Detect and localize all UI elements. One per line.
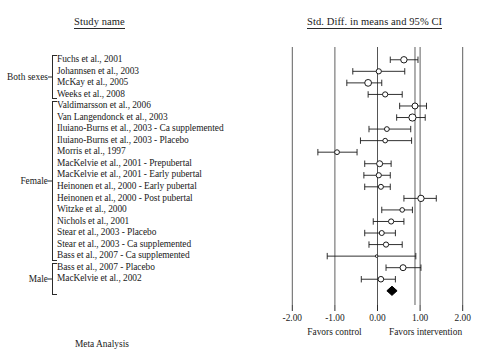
forest-row	[400, 103, 427, 109]
study-row: Iluiano-Burns et al., 2003 - Ca suppleme…	[57, 123, 317, 135]
effect-size-marker	[383, 92, 388, 97]
study-row: Fuchs et al., 2001	[57, 54, 317, 66]
forest-row	[361, 276, 395, 282]
study-row: Nichols et al., 2001	[57, 216, 317, 228]
forest-row	[365, 230, 396, 236]
forest-row	[386, 264, 421, 270]
forest-row	[404, 195, 436, 201]
effect-size-marker	[365, 79, 372, 86]
effect-size-marker	[409, 114, 416, 121]
favors-intervention-label: Favors intervention	[389, 327, 462, 337]
study-row: Bass et al., 2007 - Placebo	[57, 262, 317, 274]
effect-size-marker	[376, 173, 381, 178]
study-row: Heinonen et al., 2000 - Early pubertal	[57, 181, 317, 193]
effect-size-marker	[400, 265, 406, 271]
forest-row	[347, 79, 382, 86]
forest-row	[368, 91, 402, 97]
bracket-tick	[48, 77, 52, 78]
forest-row	[327, 253, 416, 259]
study-row: Weeks et al., 2008	[57, 89, 317, 101]
effect-size-marker	[376, 69, 381, 74]
study-row: Johannsen et al., 2003	[57, 66, 317, 78]
axis-tick-label: -1.00	[325, 313, 345, 323]
study-name-column-header: Study name	[74, 16, 125, 29]
effect-size-marker	[389, 219, 394, 224]
effect-size-marker	[401, 57, 407, 63]
forest-plot-figure: Study name Std. Diff. in means and 95% C…	[0, 0, 490, 358]
study-row: Iluiano-Burns et al., 2003 - Placebo	[57, 135, 317, 147]
bracket-tick	[48, 279, 52, 280]
effect-size-marker	[335, 150, 340, 155]
study-row: Valdimarsson et al., 2006	[57, 100, 317, 112]
meta-analysis-label: Meta Analysis	[75, 339, 129, 349]
forest-row	[365, 161, 391, 167]
study-row: MacKelvie et al., 2001 - Early pubertal	[57, 169, 317, 181]
summary-diamond	[387, 286, 397, 295]
forest-row	[373, 218, 404, 224]
group-label: Both sexes	[7, 72, 48, 82]
group-label: Female	[20, 176, 48, 186]
plot-column-header: Std. Diff. in means and 95% CI	[307, 16, 442, 29]
effect-size-marker	[375, 255, 378, 258]
forest-row	[397, 114, 426, 121]
forest-row	[365, 184, 391, 190]
effect-size-marker	[383, 138, 388, 143]
axis-tick-label: 1.00	[412, 313, 428, 323]
bracket-tick	[48, 181, 52, 182]
forest-row	[382, 207, 413, 213]
study-name-list: Fuchs et al., 2001Johannsen et al., 2003…	[57, 54, 317, 285]
forest-row	[369, 126, 411, 132]
study-row: MacKelvie et al., 2002	[57, 273, 317, 285]
effect-size-marker	[378, 276, 384, 282]
study-row: McKay et al., 2005	[57, 77, 317, 89]
forest-row	[318, 149, 357, 155]
effect-size-marker	[378, 184, 383, 189]
forest-row	[390, 57, 418, 63]
effect-size-marker	[383, 242, 388, 247]
favors-control-label: Favors control	[307, 327, 361, 337]
effect-size-marker	[400, 208, 405, 213]
group-label: Male	[29, 274, 48, 284]
study-row: Morris et al., 1997	[57, 146, 317, 158]
forest-row	[360, 137, 411, 143]
study-row: Stear et al., 2003 - Ca supplemented	[57, 239, 317, 251]
forest-row	[353, 68, 405, 74]
study-row: MacKelvie et al., 2001 - Prepubertal	[57, 158, 317, 170]
effect-size-marker	[384, 127, 389, 132]
forest-row	[364, 172, 390, 178]
axis-tick-label: -2.00	[283, 313, 303, 323]
effect-size-marker	[377, 161, 383, 167]
effect-size-marker	[418, 195, 424, 201]
axis-tick-label: 2.00	[454, 313, 470, 323]
effect-size-marker	[412, 103, 418, 109]
axis-tick-label: 0.00	[369, 313, 385, 323]
study-row: Stear et al., 2003 - Placebo	[57, 227, 317, 239]
study-row: Van Langendonck et al., 2003	[57, 112, 317, 124]
effect-size-marker	[379, 231, 384, 236]
study-row: Heinonen et al., 2000 - Post pubertal	[57, 193, 317, 205]
study-row: Witzke et al., 2000	[57, 204, 317, 216]
study-row: Bass et al., 2007 - Ca supplemented	[57, 250, 317, 262]
forest-row	[369, 241, 402, 247]
